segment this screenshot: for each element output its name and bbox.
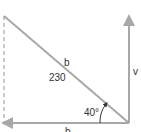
triangle-diagram: b 230 40° v b: [0, 0, 141, 132]
hypotenuse-value-label: 230: [49, 72, 66, 83]
angle-arc: [100, 104, 106, 123]
vertical-label: v: [133, 66, 138, 77]
angle-label: 40°: [84, 107, 99, 118]
hypotenuse-line: [4, 16, 129, 123]
hypotenuse-name-label: b: [64, 57, 70, 68]
horizontal-label: b: [65, 126, 71, 132]
